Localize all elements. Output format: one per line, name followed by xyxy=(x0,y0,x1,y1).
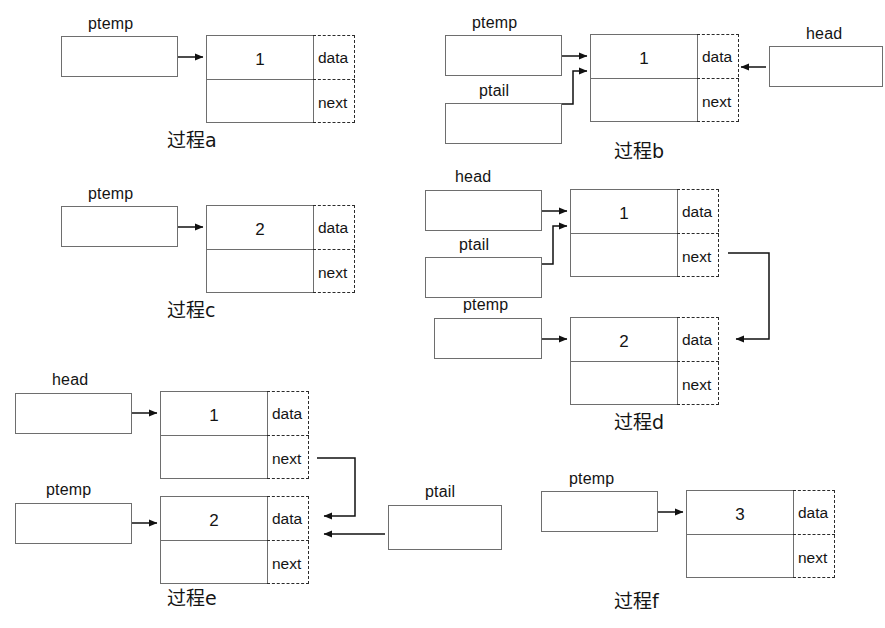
step-caption-a: 过程a xyxy=(167,125,217,152)
step-caption-e: 过程e xyxy=(167,583,217,610)
pointer-label-ptemp-b: ptemp xyxy=(472,14,517,32)
step-caption-d: 过程d xyxy=(614,407,664,434)
node-next-label-a: next xyxy=(318,95,347,111)
node-next-label-c: next xyxy=(318,265,347,281)
node-divider-c xyxy=(206,249,314,250)
pointer-label-head-b: head xyxy=(806,25,842,43)
node-box-d1: 1 data next xyxy=(570,189,719,277)
node-next-label-e2: next xyxy=(272,556,301,572)
node-divider-d1 xyxy=(570,233,678,234)
node-box-b: 1 data next xyxy=(590,34,739,122)
node-data-label-e2: data xyxy=(272,511,302,527)
node-box-f: 3 data next xyxy=(686,490,835,578)
node-dashed-divider-f xyxy=(793,534,835,535)
pointer-label-ptemp-c: ptemp xyxy=(88,185,133,203)
node-divider-b xyxy=(590,78,698,79)
node-value-d2: 2 xyxy=(570,333,678,350)
pointer-box-ptemp-e xyxy=(15,503,132,544)
pointer-label-ptemp-e: ptemp xyxy=(46,481,91,499)
pointer-box-head-d xyxy=(425,190,542,231)
node-divider-a xyxy=(206,79,314,80)
node-dashed-divider-e1 xyxy=(267,435,309,436)
node-next-label-e1: next xyxy=(272,451,301,467)
pointer-box-ptail-b xyxy=(445,103,562,144)
node-box-e1: 1 data next xyxy=(160,391,309,479)
node-box-d2: 2 data next xyxy=(570,317,719,405)
node-data-label-f: data xyxy=(798,505,828,521)
node-value-a: 1 xyxy=(206,51,314,68)
node-box-a: 1 data next xyxy=(206,35,355,123)
node-value-d1: 1 xyxy=(570,205,678,222)
node-divider-d2 xyxy=(570,361,678,362)
node-value-e1: 1 xyxy=(160,407,268,424)
node-dashed-divider-d1 xyxy=(677,233,719,234)
arrow-next1-to-node2-e xyxy=(317,458,355,516)
arrow-ptail-to-node-d xyxy=(542,226,567,264)
node-value-b: 1 xyxy=(590,50,698,67)
node-box-c: 2 data next xyxy=(206,205,355,293)
step-caption-f: 过程f xyxy=(614,586,659,613)
pointer-box-ptemp-f xyxy=(541,491,658,532)
pointer-label-ptemp-a: ptemp xyxy=(88,15,133,33)
node-next-label-d2: next xyxy=(682,377,711,393)
arrow-ptail-to-node-b xyxy=(562,71,587,104)
node-divider-e1 xyxy=(160,435,268,436)
node-data-label-b: data xyxy=(702,49,732,65)
node-next-label-d1: next xyxy=(682,249,711,265)
step-caption-b: 过程b xyxy=(614,136,664,163)
pointer-box-ptail-d xyxy=(425,257,542,298)
step-caption-c: 过程c xyxy=(167,295,215,322)
node-data-label-d1: data xyxy=(682,204,712,220)
diagram-canvas: ptemp 1 data next 过程a ptemp ptail 1 data… xyxy=(0,0,885,628)
pointer-box-head-e xyxy=(15,393,132,434)
pointer-box-ptemp-a xyxy=(61,36,178,77)
pointer-label-ptail-b: ptail xyxy=(479,82,509,100)
pointer-box-ptemp-d xyxy=(434,318,542,359)
node-data-label-d2: data xyxy=(682,332,712,348)
node-dashed-divider-b xyxy=(697,78,739,79)
node-data-label-c: data xyxy=(318,220,348,236)
pointer-box-ptail-e xyxy=(388,505,502,550)
node-next-label-f: next xyxy=(798,550,827,566)
node-data-label-e1: data xyxy=(272,406,302,422)
pointer-label-ptemp-f: ptemp xyxy=(569,470,614,488)
arrow-next1-to-node2-d xyxy=(728,253,769,339)
pointer-label-ptail-e: ptail xyxy=(425,483,455,501)
pointer-box-ptemp-c xyxy=(61,206,178,247)
node-dashed-divider-a xyxy=(313,79,355,80)
node-value-f: 3 xyxy=(686,506,794,523)
node-dashed-divider-d2 xyxy=(677,361,719,362)
node-data-label-a: data xyxy=(318,50,348,66)
pointer-label-ptemp-d: ptemp xyxy=(463,296,508,314)
pointer-label-head-e: head xyxy=(52,371,88,389)
node-divider-f xyxy=(686,534,794,535)
pointer-box-head-b xyxy=(769,46,883,87)
node-next-label-b: next xyxy=(702,94,731,110)
node-dashed-divider-c xyxy=(313,249,355,250)
pointer-label-head-d: head xyxy=(455,168,491,186)
pointer-label-ptail-d: ptail xyxy=(459,236,489,254)
node-value-e2: 2 xyxy=(160,512,268,529)
node-box-e2: 2 data next xyxy=(160,496,309,584)
node-divider-e2 xyxy=(160,540,268,541)
node-value-c: 2 xyxy=(206,221,314,238)
node-dashed-divider-e2 xyxy=(267,540,309,541)
pointer-box-ptemp-b xyxy=(445,35,562,76)
